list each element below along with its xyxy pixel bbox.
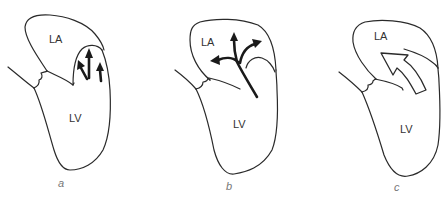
jet-branch-left bbox=[218, 58, 238, 62]
panel-label-c: c bbox=[394, 181, 400, 193]
left-atrium-outline bbox=[25, 15, 104, 71]
label-lv: LV bbox=[69, 112, 82, 124]
anterior-leaflet bbox=[47, 71, 74, 85]
aortic-wall-line bbox=[8, 67, 34, 88]
arrowhead-icon bbox=[230, 32, 238, 41]
anterior-leaflet bbox=[209, 78, 240, 89]
panel-c: LA LV c bbox=[339, 20, 440, 193]
panel-label-b: b bbox=[226, 180, 232, 192]
aortic-valve-cusp bbox=[362, 79, 376, 92]
arrowhead-icon bbox=[85, 48, 93, 58]
arrowhead-icon bbox=[252, 39, 262, 48]
arrow-shaft bbox=[100, 70, 101, 81]
arrow-shaft bbox=[81, 68, 87, 79]
aortic-valve-cusp bbox=[196, 78, 210, 89]
label-la: LA bbox=[49, 33, 63, 45]
panel-b: LA LV b bbox=[175, 19, 277, 192]
anterior-leaflet bbox=[375, 79, 403, 90]
aortic-valve-cusp bbox=[34, 71, 47, 88]
panel-a: LA LV a bbox=[8, 15, 110, 189]
label-lv: LV bbox=[400, 123, 413, 135]
label-lv: LV bbox=[233, 118, 246, 130]
panel-label-a: a bbox=[58, 177, 64, 189]
posterior-leaflet bbox=[246, 57, 275, 72]
jet-branch-right bbox=[240, 44, 255, 63]
arrowhead-icon bbox=[210, 55, 220, 65]
label-la: LA bbox=[201, 36, 215, 48]
label-la: LA bbox=[374, 30, 388, 42]
regurgitant-arrows bbox=[77, 48, 104, 81]
hollow-regurgitation-arrow-icon bbox=[381, 53, 426, 94]
left-atrium-outline bbox=[190, 19, 276, 80]
mitral-regurgitation-diagram: LA LV a LA LV b bbox=[0, 0, 448, 197]
aortic-wall-line bbox=[339, 72, 362, 92]
aortic-wall-line bbox=[175, 70, 196, 89]
arrowhead-icon bbox=[96, 62, 104, 71]
